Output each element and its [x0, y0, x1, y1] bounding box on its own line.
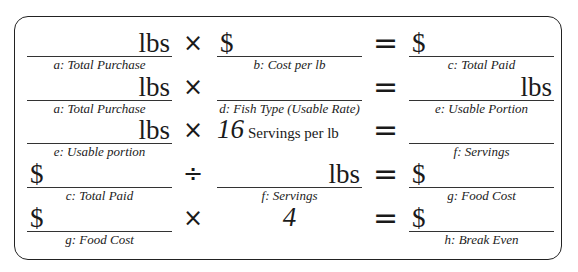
total-purchase-field[interactable]: lbs a: Total Purchase	[27, 71, 172, 101]
multiply-operator: ×	[181, 204, 205, 232]
servings-per-lb-text: Servings per lb	[248, 125, 339, 141]
unit-lbs: lbs	[138, 28, 170, 58]
field-label: b: Cost per lb	[217, 58, 362, 72]
field-label: f: Servings	[409, 145, 554, 159]
unit-dollar: $	[30, 159, 44, 189]
equals-operator: =	[373, 116, 397, 144]
row-usable-portion: lbs a: Total Purchase × d: Fish Type (Us…	[0, 71, 578, 115]
total-paid-field[interactable]: $ c: Total Paid	[409, 27, 554, 57]
unit-lbs: lbs	[138, 72, 170, 102]
servings-number: 16	[217, 114, 244, 144]
row-break-even: $ g: Food Cost × 4 = $ h: Break Even	[0, 202, 578, 246]
servings-field[interactable]: f: Servings	[409, 114, 554, 144]
unit-dollar: $	[412, 28, 426, 58]
equals-operator: =	[373, 160, 397, 188]
unit-lbs: lbs	[520, 72, 552, 102]
unit-lbs: lbs	[138, 115, 170, 145]
multiplier-constant: 4	[217, 202, 362, 232]
usable-portion-field[interactable]: lbs e: Usable portion	[27, 114, 172, 144]
cost-per-lb-field[interactable]: $ b: Cost per lb	[217, 27, 362, 57]
fish-type-field[interactable]: d: Fish Type (Usable Rate)	[217, 71, 362, 101]
row-food-cost: $ c: Total Paid ÷ lbs f: Servings = $ g:…	[0, 158, 578, 202]
field-label: a: Total Purchase	[27, 58, 172, 72]
equals-operator: =	[373, 204, 397, 232]
multiply-operator: ×	[181, 73, 205, 101]
field-label: g: Food Cost	[27, 233, 172, 247]
food-cost-field[interactable]: $ g: Food Cost	[27, 202, 172, 232]
field-label: c: Total Paid	[27, 189, 172, 203]
servings-per-lb-constant: 16 Servings per lb	[217, 114, 362, 144]
multiply-operator: ×	[181, 29, 205, 57]
unit-dollar: $	[220, 28, 234, 58]
food-cost-field[interactable]: $ g: Food Cost	[409, 158, 554, 188]
field-label: f: Servings	[217, 189, 362, 203]
servings-field[interactable]: lbs f: Servings	[217, 158, 362, 188]
divide-operator: ÷	[181, 160, 205, 188]
usable-portion-field[interactable]: lbs e: Usable Portion	[409, 71, 554, 101]
break-even-field[interactable]: $ h: Break Even	[409, 202, 554, 232]
field-label: e: Usable portion	[27, 145, 172, 159]
multiply-operator: ×	[181, 116, 205, 144]
field-label: c: Total Paid	[409, 58, 554, 72]
unit-lbs: lbs	[328, 159, 360, 189]
equals-operator: =	[373, 29, 397, 57]
unit-dollar: $	[412, 159, 426, 189]
row-servings: lbs e: Usable portion × 16 Servings per …	[0, 114, 578, 158]
equals-operator: =	[373, 73, 397, 101]
total-purchase-field[interactable]: lbs a: Total Purchase	[27, 27, 172, 57]
total-paid-field[interactable]: $ c: Total Paid	[27, 158, 172, 188]
unit-dollar: $	[30, 203, 44, 233]
multiplier-number: 4	[283, 202, 297, 232]
field-label: g: Food Cost	[409, 189, 554, 203]
row-total-paid: lbs a: Total Purchase × $ b: Cost per lb…	[0, 27, 578, 71]
unit-dollar: $	[412, 203, 426, 233]
field-label: h: Break Even	[409, 233, 554, 247]
